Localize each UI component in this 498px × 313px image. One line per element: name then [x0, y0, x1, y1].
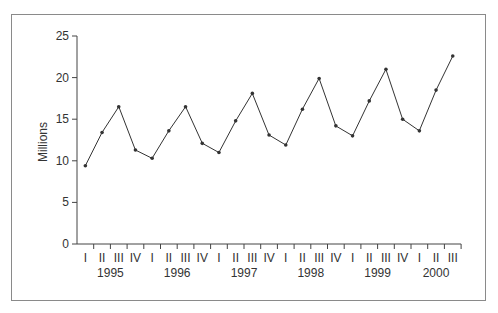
- data-point-marker: [117, 105, 121, 109]
- data-point-marker: [367, 99, 371, 103]
- data-point-marker: [284, 143, 288, 147]
- data-point-marker: [401, 117, 405, 121]
- y-tick-label: 10: [56, 154, 70, 168]
- x-quarter-label: III: [114, 251, 124, 265]
- data-point-marker: [351, 134, 355, 138]
- y-tick-label: 25: [56, 29, 70, 43]
- data-point-marker: [251, 92, 255, 96]
- x-quarter-label: IV: [397, 251, 408, 265]
- data-point-marker: [234, 119, 238, 123]
- y-tick-label: 5: [62, 195, 69, 209]
- data-point-marker: [184, 105, 188, 109]
- data-point-marker: [134, 148, 138, 152]
- x-quarter-label: III: [381, 251, 391, 265]
- x-year-label: 1995: [97, 266, 124, 280]
- data-point-marker: [100, 131, 104, 135]
- data-series: [84, 54, 455, 167]
- x-quarter-label: I: [217, 251, 220, 265]
- x-quarter-label: II: [366, 251, 373, 265]
- x-quarter-label: II: [99, 251, 106, 265]
- x-quarter-label: I: [84, 251, 87, 265]
- data-point-marker: [267, 133, 271, 137]
- x-quarter-label: IV: [130, 251, 141, 265]
- x-year-label: 1998: [297, 266, 324, 280]
- data-point-marker: [451, 54, 455, 58]
- data-point-marker: [200, 142, 204, 146]
- x-axis: IIIIIIIVIIIIIIIVIIIIIIIVIIIIIIIVIIIIIIIV…: [77, 244, 461, 280]
- data-point-marker: [418, 129, 422, 133]
- x-quarter-label: I: [351, 251, 354, 265]
- y-tick-label: 15: [56, 112, 70, 126]
- x-quarter-label: IV: [330, 251, 341, 265]
- x-quarter-label: III: [181, 251, 191, 265]
- x-quarter-label: II: [232, 251, 239, 265]
- x-year-label: 1996: [164, 266, 191, 280]
- x-quarter-label: III: [314, 251, 324, 265]
- data-point-marker: [434, 88, 438, 92]
- data-point-marker: [384, 67, 388, 71]
- data-point-marker: [167, 129, 171, 133]
- x-year-label: 2000: [423, 266, 450, 280]
- series-line: [85, 56, 453, 166]
- x-quarter-label: II: [299, 251, 306, 265]
- data-point-marker: [317, 77, 321, 81]
- data-point-marker: [150, 157, 154, 161]
- y-axis: 0510152025: [56, 29, 77, 251]
- x-quarter-label: II: [166, 251, 173, 265]
- data-point-marker: [301, 107, 305, 111]
- y-tick-label: 20: [56, 71, 70, 85]
- x-quarter-label: I: [150, 251, 153, 265]
- x-quarter-label: I: [418, 251, 421, 265]
- line-chart: 0510152025 IIIIIIIVIIIIIIIVIIIIIIIVIIIII…: [0, 0, 498, 313]
- y-tick-label: 0: [62, 237, 69, 251]
- x-quarter-label: IV: [197, 251, 208, 265]
- x-year-label: 1997: [231, 266, 258, 280]
- data-point-marker: [217, 151, 221, 155]
- y-axis-title: Millions: [36, 122, 50, 162]
- x-year-label: 1999: [364, 266, 391, 280]
- data-point-marker: [84, 164, 88, 168]
- x-quarter-label: III: [448, 251, 458, 265]
- x-quarter-label: II: [433, 251, 440, 265]
- x-quarter-label: III: [247, 251, 257, 265]
- x-quarter-label: IV: [263, 251, 274, 265]
- data-point-marker: [334, 124, 338, 128]
- x-quarter-label: I: [284, 251, 287, 265]
